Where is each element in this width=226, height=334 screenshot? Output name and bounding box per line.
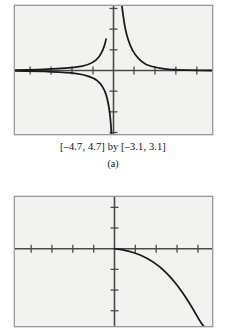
graph-a-right-curve <box>122 6 212 70</box>
graph-window-a <box>14 5 213 135</box>
graph-b-axes <box>15 197 212 326</box>
graph-a-left-curve <box>15 71 111 134</box>
graph-b-svg <box>15 197 212 326</box>
figure-caption: [–4.7, 4.7] by [–3.1, 3.1] (a) <box>0 140 226 172</box>
textbook-figure: [–4.7, 4.7] by [–3.1, 3.1] (a) <box>0 0 226 334</box>
caption-part-label: (a) <box>0 156 226 172</box>
graph-b-curve <box>114 249 203 326</box>
graph-a-svg <box>15 6 212 134</box>
graph-window-b <box>14 196 213 327</box>
curve-branch-left-tail <box>15 18 110 70</box>
caption-viewing-window: [–4.7, 4.7] by [–3.1, 3.1] <box>0 140 226 154</box>
curve-branch-left <box>15 38 106 70</box>
